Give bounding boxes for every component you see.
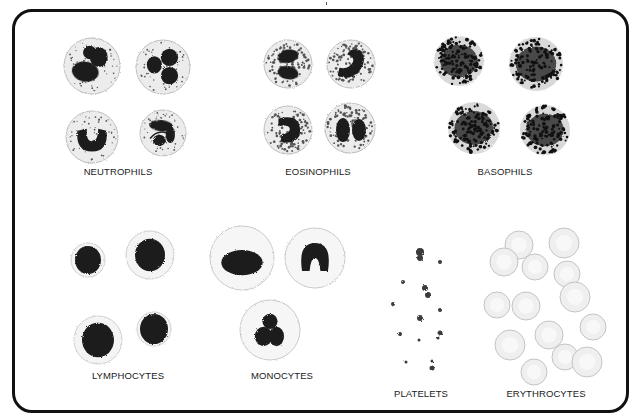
- label-neutrophils: NEUTROPHILS: [84, 166, 153, 177]
- eosinophil-cell: [264, 106, 312, 154]
- label-eosinophils: EOSINOPHILS: [285, 166, 351, 177]
- platelet-cell: [438, 308, 442, 312]
- platelet-cell: [398, 332, 402, 336]
- platelet-cell: [425, 292, 431, 298]
- erythrocyte-cell: [490, 248, 518, 276]
- basophil-cell: [448, 102, 500, 154]
- platelet-cell: [422, 285, 428, 291]
- erythrocyte-cell: [572, 347, 602, 377]
- neutrophil-cell: [136, 40, 190, 94]
- erythrocyte-cell: [549, 228, 579, 258]
- group-eosinophils: [264, 40, 375, 154]
- eosinophil-cell: [327, 40, 375, 88]
- cells-layer: [64, 36, 606, 385]
- platelet-cell: [438, 260, 442, 264]
- erythrocyte-cell: [495, 330, 525, 360]
- monocyte-cell: [285, 228, 345, 288]
- erythrocyte-cell: [521, 359, 547, 385]
- lymphocyte-cell: [126, 231, 174, 279]
- neutrophil-cell: [140, 110, 186, 156]
- neutrophil-cell: [64, 38, 120, 94]
- platelet-cell: [417, 315, 423, 321]
- lymphocyte-cell: [137, 312, 171, 346]
- monocyte-cell: [240, 300, 300, 360]
- platelet-cell: [438, 331, 443, 336]
- group-platelets: [391, 248, 443, 371]
- group-basophils: [434, 36, 570, 155]
- erythrocyte-cell: [512, 292, 540, 320]
- platelet-cell: [401, 280, 405, 284]
- group-neutrophils: [64, 38, 190, 163]
- basophil-cell: [434, 36, 484, 86]
- lymphocyte-cell: [71, 243, 105, 277]
- erythrocyte-cell: [535, 321, 563, 349]
- label-monocytes: MONOCYTES: [251, 370, 313, 381]
- group-lymphocytes: [71, 231, 174, 364]
- platelet-cell: [405, 361, 408, 364]
- erythrocyte-cell: [580, 314, 606, 340]
- label-platelets: PLATELETS: [394, 388, 448, 399]
- label-basophils: BASOPHILS: [478, 166, 533, 177]
- platelet-cell: [418, 339, 421, 342]
- eosinophil-cell: [325, 103, 375, 153]
- basophil-cell: [509, 37, 563, 91]
- group-erythrocytes: [484, 228, 606, 385]
- erythrocyte-cell: [522, 254, 548, 280]
- label-lymphocytes: LYMPHOCYTES: [92, 370, 164, 381]
- monocyte-cell: [210, 226, 274, 290]
- lymphocyte-cell: [74, 316, 122, 364]
- platelet-cell: [431, 360, 434, 363]
- label-erythrocytes: ERYTHROCYTES: [506, 388, 585, 399]
- erythrocyte-cell: [560, 282, 590, 312]
- erythrocyte-cell: [484, 292, 510, 318]
- platelet-cell: [417, 255, 423, 261]
- platelet-cell: [391, 302, 395, 306]
- group-monocytes: [210, 226, 345, 360]
- platelet-cell: [416, 248, 424, 256]
- platelet-cell: [430, 366, 435, 371]
- neutrophil-cell: [66, 111, 118, 163]
- blood-cells-illustration: [0, 0, 635, 420]
- platelet-cell: [437, 337, 440, 340]
- basophil-cell: [520, 104, 570, 155]
- eosinophil-cell: [264, 40, 312, 88]
